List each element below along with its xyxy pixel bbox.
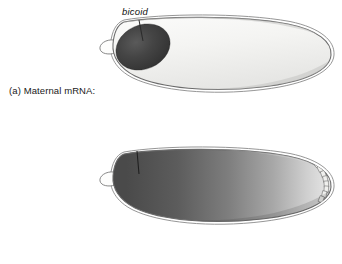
panel-protein: bicoid (b) Protein: — [0, 132, 342, 264]
panel-maternal-mrna: bicoid (a) Maternal mRNA: — [0, 0, 342, 132]
embryo-diagram-protein — [0, 132, 342, 264]
panel-label-maternal-mrna: (a) Maternal mRNA: — [9, 85, 95, 96]
gene-label-bicoid-mrna: bicoid — [122, 6, 148, 17]
figure-bicoid-gradient: bicoid (a) Maternal mRNA: — [0, 0, 342, 264]
embryo-diagram-mrna — [0, 0, 342, 132]
